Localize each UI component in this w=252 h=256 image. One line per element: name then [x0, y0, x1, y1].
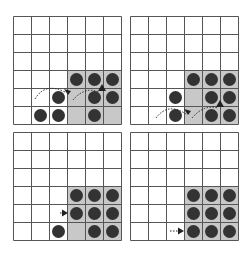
dot	[106, 207, 119, 220]
dot	[223, 73, 236, 86]
dot	[223, 109, 236, 122]
dot	[88, 189, 101, 202]
dot	[88, 73, 101, 86]
dot	[34, 109, 47, 122]
dot	[205, 207, 218, 220]
dot	[106, 189, 119, 202]
dot	[205, 73, 218, 86]
grid-svg	[13, 16, 122, 125]
grid-svg	[130, 16, 239, 125]
dot	[223, 225, 236, 238]
dot	[106, 225, 119, 238]
dot	[187, 207, 200, 220]
grid-svg	[13, 132, 122, 241]
dot	[52, 109, 65, 122]
grid-panel-bottom-right	[130, 132, 238, 240]
dot	[52, 91, 65, 104]
dot	[205, 225, 218, 238]
dot	[88, 109, 101, 122]
dot	[88, 225, 101, 238]
grid-svg	[130, 132, 239, 241]
dot	[187, 73, 200, 86]
dot	[70, 73, 83, 86]
dot	[223, 189, 236, 202]
dot	[70, 207, 83, 220]
arrowhead-icon	[178, 228, 184, 235]
dot	[106, 73, 119, 86]
dot	[223, 91, 236, 104]
grid-panel-top-left	[13, 16, 121, 124]
dot	[205, 109, 218, 122]
dot	[187, 225, 200, 238]
grid-panel-bottom-left	[13, 132, 121, 240]
dot	[88, 91, 101, 104]
dot	[106, 91, 119, 104]
dot	[88, 207, 101, 220]
dot	[223, 207, 236, 220]
dot	[169, 91, 182, 104]
dot	[70, 189, 83, 202]
dot	[52, 225, 65, 238]
dot	[205, 189, 218, 202]
dot	[205, 91, 218, 104]
grid-panel-top-right	[130, 16, 238, 124]
dot	[187, 189, 200, 202]
